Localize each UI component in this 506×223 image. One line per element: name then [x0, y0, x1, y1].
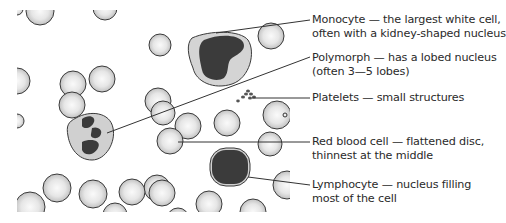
red-blood-cells: [4, 0, 301, 223]
label-red-blood-cell-line1: Red blood cell — flattened disc,: [312, 135, 484, 149]
label-monocyte-line2: often with a kidney-shaped nucleus: [312, 27, 506, 41]
label-polymorph-line1: Polymorph — has a lobed nucleus: [312, 51, 497, 65]
label-platelets: Platelets — small structures: [312, 91, 464, 105]
label-polymorph: Polymorph — has a lobed nucleus (often 3…: [312, 51, 497, 78]
label-red-blood-cell: Red blood cell — flattened disc, thinnes…: [312, 135, 484, 162]
lymphocyte-cell: [210, 148, 250, 186]
label-red-blood-cell-line2: thinnest at the middle: [312, 149, 484, 163]
monocyte-cell: [188, 32, 251, 86]
label-lymphocyte-line1: Lymphocyte — nucleus filling: [312, 178, 471, 192]
label-platelets-line1: Platelets — small structures: [312, 91, 464, 105]
cell-field: [4, 0, 301, 223]
label-lymphocyte-line2: most of the cell: [312, 192, 471, 206]
label-monocyte: Monocyte — the largest white cell, often…: [312, 13, 506, 40]
label-monocyte-line1: Monocyte — the largest white cell,: [312, 13, 506, 27]
label-polymorph-line2: (often 3—5 lobes): [312, 65, 497, 79]
label-lymphocyte: Lymphocyte — nucleus filling most of the…: [312, 178, 471, 205]
platelets: [236, 90, 256, 103]
polymorph-cell: [67, 113, 113, 160]
